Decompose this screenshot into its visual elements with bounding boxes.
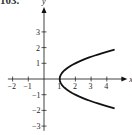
x-axis-label: x: [128, 75, 132, 84]
y-arrow-icon: [42, 7, 47, 13]
x-tick-label: −1: [23, 82, 32, 91]
x-tick-label: 3: [89, 82, 93, 91]
y-tick-label: −3: [32, 122, 41, 131]
y-tick-label: 2: [36, 44, 40, 53]
x-arrow-icon: [121, 77, 127, 82]
y-axis-label: y: [41, 0, 46, 6]
x-tick-label: 4: [104, 82, 108, 91]
chart-plot: xy−2−11234−3−2−1123: [0, 0, 132, 135]
x-tick-label: 2: [73, 82, 77, 91]
y-tick-label: −1: [32, 91, 41, 100]
y-tick-label: −2: [32, 106, 41, 115]
y-tick-label: 3: [36, 28, 40, 37]
y-tick-label: 1: [36, 59, 40, 68]
x-tick-label: −2: [8, 82, 17, 91]
